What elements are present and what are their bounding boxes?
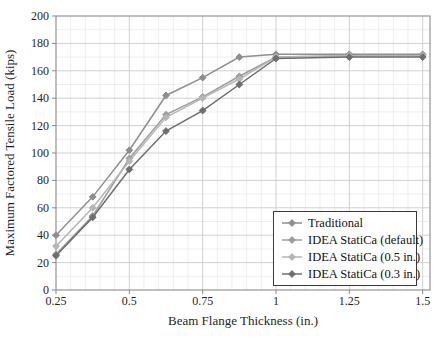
legend-marker-icon	[281, 218, 303, 228]
legend: TraditionalIDEA StatiCa (default)IDEA St…	[273, 211, 417, 286]
series-marker	[236, 54, 243, 61]
legend-label: IDEA StatiCa (default)	[308, 233, 423, 248]
series-marker	[199, 74, 206, 81]
chart-canvas: 0.250.50.7511.251.5020406080100120140160…	[0, 0, 441, 341]
y-tick-label: 160	[31, 64, 49, 78]
line-chart-figure: 0.250.50.7511.251.5020406080100120140160…	[0, 0, 441, 341]
legend-label: Traditional	[308, 216, 363, 231]
legend-marker-icon	[281, 235, 303, 245]
x-tick-label: 0.75	[192, 294, 213, 308]
legend-diamond	[289, 220, 296, 227]
y-tick-label: 60	[37, 201, 49, 215]
legend-diamond	[289, 254, 296, 261]
legend-entry-1: IDEA StatiCa (default)	[281, 232, 416, 249]
y-tick-label: 0	[43, 283, 49, 297]
y-tick-label: 100	[31, 146, 49, 160]
y-axis-title: Maximum Factored Tensile Load (kips)	[2, 50, 17, 257]
x-axis-title: Beam Flange Thickness (in.)	[168, 313, 318, 328]
y-tick-label: 40	[37, 228, 49, 242]
legend-marker-icon	[281, 252, 303, 262]
y-tick-label: 120	[31, 119, 49, 133]
y-tick-label: 180	[31, 36, 49, 50]
legend-marker-icon	[281, 269, 303, 279]
legend-label: IDEA StatiCa (0.5 in.)	[308, 250, 420, 265]
x-tick-label: 0.5	[122, 294, 137, 308]
x-tick-label: 1	[273, 294, 279, 308]
legend-entry-3: IDEA StatiCa (0.3 in.)	[281, 266, 416, 283]
y-tick-label: 140	[31, 91, 49, 105]
legend-diamond	[289, 237, 296, 244]
y-tick-label: 20	[37, 256, 49, 270]
y-tick-label: 80	[37, 173, 49, 187]
legend-entry-0: Traditional	[281, 215, 416, 232]
x-tick-label: 1.5	[415, 294, 430, 308]
legend-diamond	[289, 271, 296, 278]
y-tick-label: 200	[31, 9, 49, 23]
legend-label: IDEA StatiCa (0.3 in.)	[308, 267, 420, 282]
legend-entry-2: IDEA StatiCa (0.5 in.)	[281, 249, 416, 266]
x-tick-label: 1.25	[339, 294, 360, 308]
